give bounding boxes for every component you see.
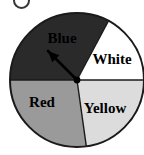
spinner-figure: Blue White Yellow Red: [0, 0, 144, 155]
pie-slice-red[interactable]: [10, 80, 86, 147]
slice-label-yellow: Yellow: [84, 100, 127, 116]
slice-label-blue: Blue: [47, 30, 77, 46]
spinner-pie-chart: Blue White Yellow Red: [0, 0, 144, 155]
slice-label-white: White: [92, 51, 132, 67]
spinner-arrow-pivot: [74, 77, 81, 84]
slice-label-red: Red: [29, 94, 55, 110]
